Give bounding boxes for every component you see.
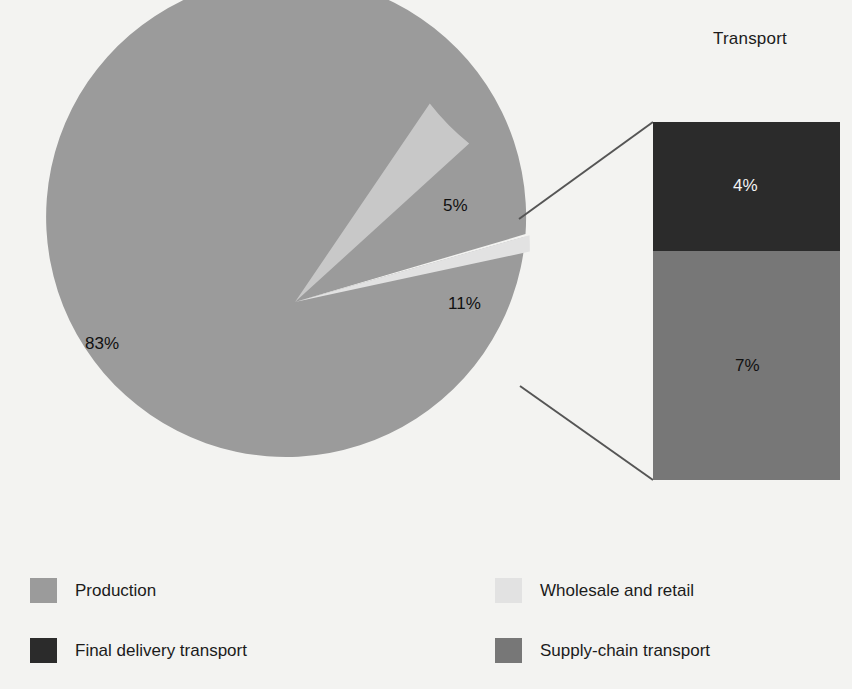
breakout-svg [0, 0, 852, 560]
chart-legend: Production Wholesale and retail Final de… [0, 560, 852, 689]
legend-item-final-delivery-transport[interactable]: Final delivery transport [30, 638, 247, 663]
legend-label-final-delivery-transport: Final delivery transport [75, 641, 247, 661]
legend-swatch-icon [495, 578, 522, 603]
legend-item-supply-chain-transport[interactable]: Supply-chain transport [495, 638, 710, 663]
leader-line-lower [520, 386, 653, 480]
legend-label-supply-chain-transport: Supply-chain transport [540, 641, 710, 661]
chart-figure: Total Transport 83% 5% 11% 4% 7% Produ [0, 0, 852, 689]
legend-swatch-icon [495, 638, 522, 663]
legend-swatch-icon [30, 578, 57, 603]
leader-line-upper [519, 122, 653, 219]
legend-item-wholesale-and-retail[interactable]: Wholesale and retail [495, 578, 694, 603]
transport-breakout: 4% 7% [0, 0, 852, 560]
legend-label-wholesale-and-retail: Wholesale and retail [540, 581, 694, 601]
legend-item-production[interactable]: Production [30, 578, 156, 603]
bar-value-label-supply-chain-transport: 7% [735, 356, 760, 376]
legend-swatch-icon [30, 638, 57, 663]
legend-label-production: Production [75, 581, 156, 601]
bar-value-label-final-delivery-transport: 4% [733, 176, 758, 196]
